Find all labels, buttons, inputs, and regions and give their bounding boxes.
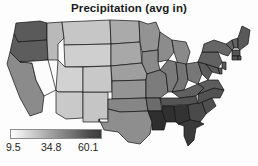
state-NJ[interactable] xyxy=(222,62,226,70)
state-KS[interactable] xyxy=(112,80,146,99)
state-NM[interactable] xyxy=(83,92,108,122)
chart-title: Precipitation (avg in) xyxy=(0,2,258,14)
state-OK[interactable] xyxy=(108,98,148,112)
state-WY[interactable] xyxy=(64,44,111,67)
state-FL[interactable] xyxy=(178,120,204,146)
state-CT[interactable] xyxy=(232,56,238,60)
colorbar-tick-max: 60.1 xyxy=(78,141,98,153)
colorbar-gradient xyxy=(10,129,102,139)
state-SD[interactable] xyxy=(111,42,142,66)
state-ME[interactable] xyxy=(238,26,250,50)
colorbar-tick-labels: 9.5 34.8 60.1 xyxy=(10,141,102,155)
state-ID[interactable] xyxy=(47,22,64,60)
colorbar-legend: 9.5 34.8 60.1 xyxy=(10,129,102,155)
state-AR[interactable] xyxy=(146,98,162,111)
state-MO[interactable] xyxy=(146,70,168,98)
state-MN[interactable] xyxy=(139,21,160,52)
state-MT[interactable] xyxy=(62,20,111,45)
state-NE[interactable] xyxy=(111,63,147,81)
state-WI[interactable] xyxy=(158,32,174,62)
state-MA[interactable] xyxy=(232,50,240,56)
colorbar-tick-min: 9.5 xyxy=(6,141,21,153)
colorbar-tick-mid: 34.8 xyxy=(41,141,61,153)
figure-container: Precipitation (avg in) xyxy=(0,0,258,166)
state-RI[interactable] xyxy=(238,56,241,60)
state-WA[interactable] xyxy=(14,21,47,42)
state-CO[interactable] xyxy=(83,66,112,92)
state-ND[interactable] xyxy=(110,20,140,44)
state-AZ[interactable] xyxy=(56,90,83,119)
